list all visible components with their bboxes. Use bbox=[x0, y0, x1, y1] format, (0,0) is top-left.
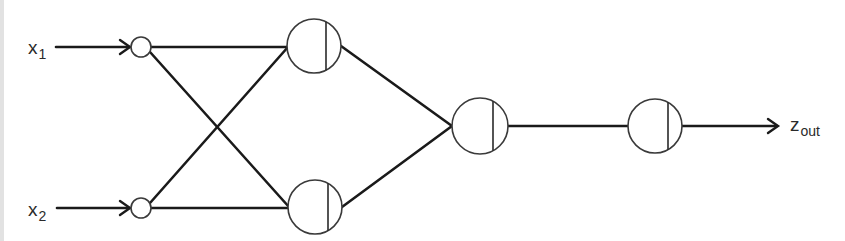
output-arrow bbox=[682, 119, 778, 133]
connections-hidden-to-middle bbox=[341, 46, 452, 207]
output-label-zout: zout bbox=[790, 114, 820, 139]
hidden-node-h1 bbox=[287, 19, 341, 73]
edge-h1-h3 bbox=[341, 46, 452, 126]
edge-x2-h1 bbox=[150, 47, 288, 203]
hidden-node-h3 bbox=[452, 98, 508, 154]
input-node-x2 bbox=[131, 198, 151, 218]
edge-h2-h3 bbox=[342, 126, 452, 207]
edge-x1-h2 bbox=[150, 52, 289, 207]
input-node-x1 bbox=[131, 37, 151, 57]
input-label-x1: x1 bbox=[28, 37, 47, 62]
output-node-o1 bbox=[628, 99, 682, 153]
input-arrow-x1 bbox=[56, 40, 130, 54]
connections-input-to-hidden bbox=[150, 47, 289, 208]
input-label-x2: x2 bbox=[28, 199, 47, 224]
neural-network-diagram: x1 x2 zout bbox=[0, 0, 845, 241]
hidden-node-h2 bbox=[288, 180, 342, 234]
input-arrow-x2 bbox=[57, 201, 130, 215]
